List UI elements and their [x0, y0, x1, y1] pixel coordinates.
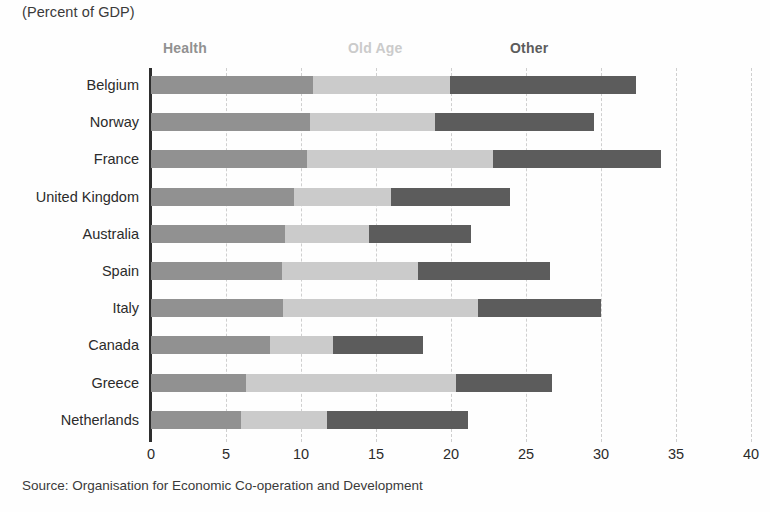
x-axis-tick-20: 20	[443, 446, 459, 462]
bar-segment-health[interactable]	[151, 336, 270, 354]
bar-segment-old-age[interactable]	[241, 411, 327, 429]
x-axis-tick-25: 25	[518, 446, 534, 462]
bar-segment-old-age[interactable]	[310, 113, 435, 131]
y-axis-label-france: France	[94, 151, 139, 167]
bar-segment-old-age[interactable]	[270, 336, 333, 354]
gridline-35	[676, 68, 678, 442]
bar-segment-other[interactable]	[456, 374, 552, 392]
bar-segment-health[interactable]	[151, 76, 313, 94]
bar-segment-health[interactable]	[151, 150, 307, 168]
y-axis-label-united-kingdom: United Kingdom	[36, 189, 139, 205]
y-axis-label-netherlands: Netherlands	[61, 412, 139, 428]
x-axis-tick-35: 35	[668, 446, 684, 462]
y-axis-label-canada: Canada	[88, 337, 139, 353]
gridline-40	[751, 68, 753, 442]
bar-segment-old-age[interactable]	[294, 188, 392, 206]
bar-segment-old-age[interactable]	[285, 225, 369, 243]
bar-segment-health[interactable]	[151, 299, 283, 317]
x-axis-ticks: 0510152025303540	[0, 446, 770, 472]
bar-row[interactable]	[151, 225, 471, 243]
bar-segment-old-age[interactable]	[307, 150, 493, 168]
source-note: Source: Organisation for Economic Co-ope…	[22, 478, 423, 493]
legend-item-other: Other	[510, 40, 548, 56]
bar-segment-health[interactable]	[151, 411, 241, 429]
y-axis-label-belgium: Belgium	[87, 77, 139, 93]
bar-segment-health[interactable]	[151, 113, 310, 131]
chart-plot-area	[151, 68, 751, 442]
bar-row[interactable]	[151, 299, 601, 317]
bar-row[interactable]	[151, 76, 636, 94]
legend-item-health: Health	[163, 40, 207, 56]
y-axis-label-greece: Greece	[91, 375, 139, 391]
bar-segment-other[interactable]	[435, 113, 594, 131]
x-axis-tick-15: 15	[368, 446, 384, 462]
bar-row[interactable]	[151, 113, 594, 131]
y-axis-label-italy: Italy	[112, 300, 139, 316]
bar-segment-health[interactable]	[151, 188, 294, 206]
bar-row[interactable]	[151, 374, 552, 392]
y-axis-label-spain: Spain	[102, 263, 139, 279]
bar-row[interactable]	[151, 411, 468, 429]
bar-segment-other[interactable]	[478, 299, 601, 317]
bar-segment-old-age[interactable]	[282, 262, 419, 280]
x-axis-tick-10: 10	[293, 446, 309, 462]
y-axis-label-norway: Norway	[90, 114, 139, 130]
gridline-30	[601, 68, 603, 442]
bar-segment-health[interactable]	[151, 374, 246, 392]
legend-item-old-age: Old Age	[348, 40, 403, 56]
chart-legend: Health Old Age Other	[0, 40, 770, 60]
bar-row[interactable]	[151, 336, 423, 354]
chart-subtitle: (Percent of GDP)	[22, 4, 135, 20]
bar-segment-health[interactable]	[151, 225, 285, 243]
bar-row[interactable]	[151, 262, 550, 280]
bar-segment-other[interactable]	[493, 150, 661, 168]
y-axis-labels: BelgiumNorwayFranceUnited KingdomAustral…	[0, 68, 145, 442]
bar-segment-other[interactable]	[391, 188, 510, 206]
x-axis-tick-40: 40	[743, 446, 759, 462]
bar-segment-old-age[interactable]	[283, 299, 478, 317]
bar-segment-old-age[interactable]	[246, 374, 456, 392]
bar-row[interactable]	[151, 150, 661, 168]
x-axis-tick-5: 5	[222, 446, 230, 462]
x-axis-tick-30: 30	[593, 446, 609, 462]
bar-segment-other[interactable]	[450, 76, 636, 94]
bar-segment-old-age[interactable]	[313, 76, 450, 94]
bar-segment-other[interactable]	[369, 225, 471, 243]
bar-row[interactable]	[151, 188, 510, 206]
y-axis-label-australia: Australia	[83, 226, 139, 242]
bar-segment-other[interactable]	[418, 262, 550, 280]
x-axis-tick-0: 0	[147, 446, 155, 462]
bar-segment-health[interactable]	[151, 262, 282, 280]
bar-segment-other[interactable]	[333, 336, 423, 354]
bar-segment-other[interactable]	[327, 411, 468, 429]
